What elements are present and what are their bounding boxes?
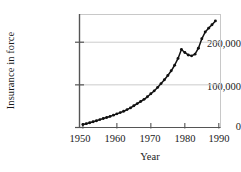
data-point: [98, 118, 101, 121]
data-point: [136, 102, 139, 105]
data-point: [139, 100, 142, 103]
data-point: [105, 116, 108, 119]
data-point: [180, 48, 183, 51]
data-point: [122, 110, 125, 113]
data-point: [85, 122, 88, 125]
data-point: [81, 123, 84, 126]
data-point: [146, 95, 149, 98]
data-series-insurance-in-force: [81, 19, 216, 126]
data-point: [92, 120, 95, 123]
data-point: [200, 37, 203, 40]
data-point: [153, 89, 156, 92]
data-point: [190, 54, 193, 57]
data-point: [95, 119, 98, 122]
data-point: [166, 74, 169, 77]
data-markers: [81, 19, 216, 126]
data-point: [194, 53, 197, 56]
data-point: [207, 27, 210, 30]
data-point: [187, 54, 190, 57]
data-point: [173, 64, 176, 67]
data-line: [83, 21, 216, 125]
data-point: [112, 114, 115, 117]
data-point: [160, 82, 163, 85]
data-point: [126, 108, 129, 111]
data-point: [88, 121, 91, 124]
axis-spines: [79, 14, 221, 128]
data-point: [119, 111, 122, 114]
plot-area: [0, 0, 241, 172]
data-point: [183, 51, 186, 54]
data-point: [156, 86, 159, 89]
data-point: [132, 104, 135, 107]
data-point: [143, 98, 146, 101]
plot-frame: [80, 15, 221, 128]
data-point: [211, 23, 214, 26]
frame-rect: [80, 15, 221, 128]
data-point: [204, 31, 207, 34]
data-point: [102, 117, 105, 120]
data-point: [197, 47, 200, 50]
data-point: [129, 106, 132, 109]
data-point: [109, 115, 112, 118]
data-point: [177, 57, 180, 60]
data-point: [170, 69, 173, 72]
data-point: [115, 112, 118, 115]
data-point: [149, 92, 152, 95]
data-point: [214, 19, 217, 22]
data-point: [163, 78, 166, 81]
chart-figure: Insurance in force 200,000 100,000 0 195…: [0, 0, 241, 172]
